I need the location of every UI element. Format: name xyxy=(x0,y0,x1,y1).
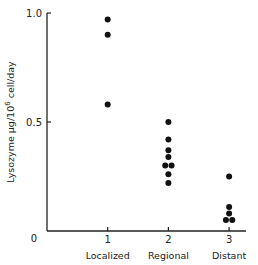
data-points xyxy=(105,17,236,224)
x-category-label: Distant xyxy=(212,250,246,261)
data-point xyxy=(105,32,111,38)
data-point xyxy=(105,102,111,108)
data-point xyxy=(165,171,171,177)
y-axis-label: Lysozyme µg/106 cell/day xyxy=(4,61,16,183)
x-category-label: Regional xyxy=(148,250,189,261)
axes xyxy=(47,13,246,231)
data-point xyxy=(223,217,229,223)
y-tick-label: 1.0 xyxy=(26,8,42,19)
x-tick-label: 2 xyxy=(165,234,171,245)
data-point xyxy=(165,136,171,142)
data-point xyxy=(169,163,175,169)
data-point xyxy=(226,211,232,217)
data-point xyxy=(162,163,168,169)
x-axis-ticks: 1Localized2Regional3Distant xyxy=(86,227,247,261)
x-tick-label: 3 xyxy=(226,234,232,245)
data-point xyxy=(229,217,235,223)
data-point xyxy=(226,204,232,210)
data-point xyxy=(226,174,232,180)
x-category-label: Localized xyxy=(86,250,130,261)
data-point xyxy=(165,147,171,153)
data-point xyxy=(165,154,171,160)
data-point xyxy=(165,119,171,125)
y-tick-label: 0 xyxy=(31,233,37,244)
x-tick-label: 1 xyxy=(105,234,111,245)
y-tick-label: 0.5 xyxy=(26,117,42,128)
data-point xyxy=(105,17,111,23)
scatter-chart: 00.51.0 1Localized2Regional3Distant Lyso… xyxy=(0,0,258,265)
data-point xyxy=(165,180,171,186)
